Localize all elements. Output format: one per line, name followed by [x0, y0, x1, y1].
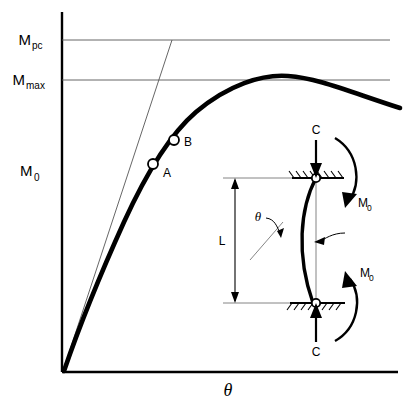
moment-top-arc [335, 138, 356, 201]
moment-bottom-arrowhead [342, 271, 357, 288]
deflection-pointer [314, 233, 345, 245]
axis-titles: M 0 θ [20, 162, 233, 400]
axial-load-bottom-label: C [312, 345, 321, 359]
label-mmax: M [13, 71, 26, 88]
deflected-column-shape [302, 178, 316, 303]
gridlines [62, 40, 390, 80]
axial-load-top-label: C [312, 123, 321, 137]
moment-bottom-arc [335, 279, 357, 341]
marker-label-a: A [163, 166, 171, 180]
label-mpc: M [19, 31, 32, 48]
axial-load-bottom: C [310, 303, 322, 359]
rotation-label: θ [255, 209, 262, 224]
label-mmax-subscript: max [26, 80, 45, 91]
length-dimension: L [219, 178, 292, 303]
dimension-arrowhead-bottom [231, 292, 239, 303]
axial-load-top: C [310, 123, 322, 178]
moment-top-arrowhead [342, 192, 357, 208]
x-axis-label: θ [224, 380, 233, 400]
gridline-labels: M pc M max [13, 31, 45, 91]
dimension-arrowhead-top [231, 178, 239, 189]
initial-tangent-line [63, 40, 172, 371]
moment-rotation-figure: M pc M max M 0 θ A B [0, 0, 405, 407]
plot-axes [62, 12, 398, 372]
marker-point-b [169, 135, 179, 145]
moment-top-label-subscript: 0 [367, 203, 372, 213]
length-label: L [219, 234, 226, 248]
curve-point-markers: A B [148, 135, 192, 180]
moment-bottom-label-subscript: 0 [369, 273, 374, 283]
y-axis-label: M [20, 162, 33, 179]
marker-point-a [148, 159, 158, 169]
rotation-angle-annotation: θ [250, 209, 284, 260]
label-mpc-subscript: pc [32, 40, 43, 51]
y-axis-label-subscript: 0 [34, 172, 40, 183]
inset-column-diagram: C C M 0 M 0 [219, 123, 374, 359]
marker-label-b: B [184, 135, 192, 149]
